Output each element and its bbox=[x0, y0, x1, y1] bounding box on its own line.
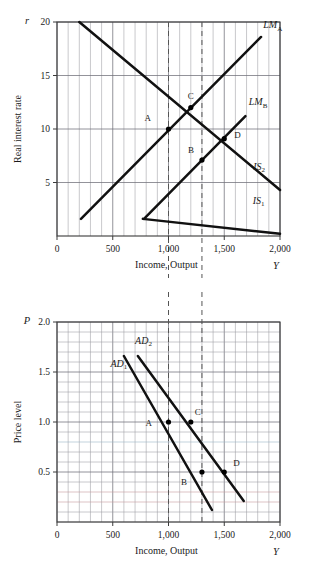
data-point-C bbox=[188, 105, 193, 110]
ytick-label-20: 20 bbox=[41, 17, 51, 27]
ytick-label-0.5: 0.5 bbox=[38, 467, 50, 477]
point-label-A: A bbox=[145, 113, 152, 123]
curve-label-sub: A bbox=[277, 25, 282, 33]
ytick-label-1: 1.0 bbox=[38, 417, 50, 427]
xtick-label-1000: 1,000 bbox=[158, 244, 180, 254]
xtick-label-0: 0 bbox=[55, 530, 60, 540]
ytick-label-10: 10 bbox=[41, 124, 51, 134]
x-axis-symbol: Y bbox=[273, 546, 280, 557]
xtick-label-500: 500 bbox=[106, 244, 121, 254]
x-axis-title: Income, Output bbox=[135, 259, 198, 270]
xtick-label-1000: 1,000 bbox=[158, 530, 180, 540]
point-label-B: B bbox=[181, 477, 187, 487]
data-point-B bbox=[199, 469, 204, 474]
curve-label-sub: B bbox=[263, 102, 268, 110]
curve-label-IS1: IS1 bbox=[252, 195, 265, 208]
y-axis-symbol: r bbox=[25, 15, 30, 26]
xtick-label-1500: 1,500 bbox=[214, 530, 236, 540]
ytick-label-5: 5 bbox=[45, 178, 50, 188]
y-axis-title: Price level bbox=[12, 401, 23, 444]
point-label-D: D bbox=[233, 458, 240, 468]
curve-label-sub: 2 bbox=[148, 340, 152, 348]
point-label-B: B bbox=[188, 145, 194, 155]
curve-label-sub: 1 bbox=[261, 200, 265, 208]
ytick-label-1.5: 1.5 bbox=[38, 367, 50, 377]
curve-AD1 bbox=[124, 356, 212, 510]
panel-bottom: AD1AD2ACBD05001,0001,5002,0000.51.01.52.… bbox=[12, 292, 291, 557]
y-axis-symbol: P bbox=[23, 315, 31, 326]
y-axis-title: Real interest rate bbox=[12, 95, 23, 163]
islm-ad-figure: IS1IS2LMALMBABCD05001,0001,5002,00051015… bbox=[0, 0, 312, 580]
data-point-A bbox=[166, 419, 171, 424]
point-label-A: A bbox=[146, 418, 153, 428]
xtick-label-2000: 2,000 bbox=[269, 530, 291, 540]
point-label-C: C bbox=[195, 407, 201, 417]
ytick-label-2: 2.0 bbox=[38, 317, 50, 327]
xtick-label-1500: 1,500 bbox=[214, 244, 236, 254]
curve-label-sub: 2 bbox=[262, 166, 266, 174]
curve-label-AD2: AD2 bbox=[134, 335, 152, 348]
data-point-C bbox=[188, 419, 193, 424]
curve-LMB bbox=[144, 116, 245, 219]
x-axis-symbol: Y bbox=[273, 260, 280, 271]
curve-label-LMA: LMA bbox=[262, 19, 282, 32]
figure-container: IS1IS2LMALMBABCD05001,0001,5002,00051015… bbox=[0, 0, 312, 580]
x-axis-title: Income, Output bbox=[135, 545, 198, 556]
curve-IS1 bbox=[143, 219, 280, 234]
data-point-A bbox=[166, 126, 171, 131]
data-point-D bbox=[222, 136, 227, 141]
data-point-B bbox=[199, 157, 204, 162]
point-label-D: D bbox=[234, 130, 241, 140]
panel-top: IS1IS2LMALMBABCD05001,0001,5002,00051015… bbox=[12, 15, 291, 278]
xtick-label-0: 0 bbox=[55, 244, 60, 254]
ytick-label-15: 15 bbox=[41, 71, 51, 81]
data-point-D bbox=[222, 469, 227, 474]
curve-label-sub: 1 bbox=[124, 363, 128, 371]
xtick-label-500: 500 bbox=[106, 530, 121, 540]
xtick-label-2000: 2,000 bbox=[269, 244, 291, 254]
point-label-C: C bbox=[188, 91, 194, 101]
